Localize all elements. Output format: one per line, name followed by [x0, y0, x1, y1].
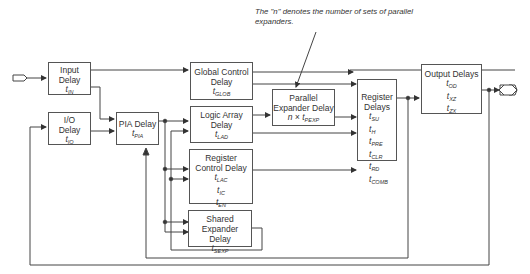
- block-title: Input: [49, 65, 90, 75]
- block-param: tRD: [369, 162, 396, 175]
- block-param: tSU: [369, 112, 396, 125]
- block-param: tLAD: [191, 130, 252, 143]
- block-title: Control Delay: [190, 163, 252, 173]
- block-title: Delay: [49, 125, 90, 135]
- parallel-expander-delay-block: Parallel Expander Delay n × tPEXP: [272, 89, 335, 126]
- pia-delay-block: PIA Delay tPIA: [116, 112, 159, 145]
- block-title: Delay: [191, 120, 252, 130]
- block-param: tCOMB: [369, 175, 396, 188]
- block-param: tZX: [422, 104, 481, 117]
- block-title: Global Control: [191, 67, 252, 77]
- input-delay-block: Input Delay tIN: [48, 62, 91, 95]
- block-title: Delay: [189, 234, 251, 244]
- register-control-delay-block: Register Control Delay tLAC tIC tEN: [189, 149, 253, 204]
- block-title: I/O: [49, 115, 90, 125]
- block-param: tPIA: [117, 129, 158, 142]
- block-param: tIN: [49, 85, 90, 98]
- block-title: Output Delays: [422, 69, 481, 79]
- block-param: tIC: [190, 186, 252, 199]
- register-delays-block: Register Delays tSU tH tPRE tCLR tRD tCO…: [357, 79, 397, 161]
- block-title: Delay: [49, 75, 90, 85]
- global-control-delay-block: Global Control Delay tGLOB: [190, 62, 253, 100]
- block-param: tLAC: [190, 173, 252, 186]
- block-param: tH: [369, 125, 396, 138]
- block-title: Register: [358, 92, 396, 102]
- annotation-line1: The "n" denotes the number of sets of pa…: [255, 7, 413, 16]
- block-param: tPRE: [369, 137, 396, 150]
- block-param: tXZ: [422, 92, 481, 105]
- block-param: tGLOB: [191, 87, 252, 100]
- block-title: Logic Array: [191, 110, 252, 120]
- block-title: Delay: [191, 77, 252, 87]
- block-title: Shared Expander: [189, 214, 251, 234]
- block-title: PIA Delay: [117, 119, 158, 129]
- logic-array-delay-block: Logic Array Delay tLAD: [190, 106, 253, 143]
- block-param: tSEXP: [189, 244, 251, 257]
- annotation-note: The "n" denotes the number of sets of pa…: [255, 7, 425, 27]
- io-delay-block: I/O Delay tIO: [48, 112, 91, 145]
- shared-expander-delay-block: Shared Expander Delay tSEXP: [188, 210, 252, 247]
- block-title: Register: [190, 153, 252, 163]
- block-title: Delays: [358, 102, 396, 112]
- block-title: Parallel: [273, 93, 334, 103]
- output-delays-block: Output Delays tOD tXZ tZX: [421, 64, 482, 114]
- block-param: tCLR: [369, 150, 396, 163]
- block-param: tEN: [190, 198, 252, 211]
- block-param: tOD: [422, 79, 481, 92]
- annotation-line2: expanders.: [255, 17, 294, 26]
- block-param: tIO: [49, 135, 90, 148]
- block-param: n × tPEXP: [273, 113, 334, 126]
